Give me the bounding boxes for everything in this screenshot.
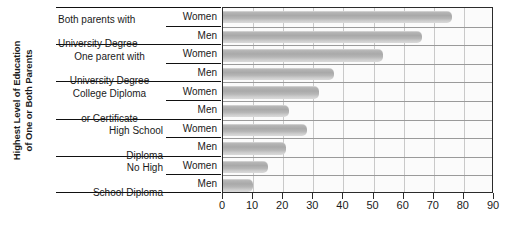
bar-row	[223, 138, 492, 157]
series-label: Women	[183, 160, 217, 171]
category-label-line-1: Both parents with	[58, 14, 135, 25]
bar-row	[223, 157, 492, 176]
category-label-line-1: High School	[109, 125, 163, 136]
bar-row	[223, 175, 492, 194]
series-label-column: Women Men Women Men Women Men Women Men …	[166, 7, 221, 193]
y-axis-title-line-2: of One or Both Parents	[23, 40, 35, 159]
x-axis-tick-label: 70	[427, 199, 439, 211]
series-label: Women	[183, 123, 217, 134]
bar-row	[223, 82, 492, 101]
horizontal-bar-chart: Highest Level of Education of One or Bot…	[0, 0, 513, 235]
series-label-row: Women	[166, 44, 221, 63]
series-label-row: Women	[166, 7, 221, 26]
bar-rows	[223, 8, 492, 192]
x-axis-tick-label: 60	[397, 199, 409, 211]
bar-row	[223, 27, 492, 46]
bar-row	[223, 45, 492, 64]
bar-women	[223, 124, 307, 136]
x-axis-tick-label: 0	[219, 199, 225, 211]
series-label: Women	[183, 11, 217, 22]
series-label-row: Women	[166, 119, 221, 138]
series-label-row: Men	[166, 137, 221, 156]
bar-men	[223, 105, 289, 117]
series-label-row: Men	[166, 100, 221, 119]
plot-area	[222, 7, 493, 193]
bar-row	[223, 101, 492, 120]
x-axis-tick-label: 90	[487, 199, 499, 211]
bar-row	[223, 64, 492, 83]
series-label: Women	[183, 86, 217, 97]
series-label-row: Women	[166, 81, 221, 100]
bar-women	[223, 11, 452, 23]
series-label: Men	[198, 30, 217, 41]
y-axis-title: Highest Level of Education of One or Bot…	[0, 0, 46, 200]
bar-men	[223, 68, 334, 80]
x-axis-tick-label: 30	[306, 199, 318, 211]
x-axis-tick-label: 80	[457, 199, 469, 211]
category-label-line-1: One parent with	[74, 51, 145, 62]
category-label-line-1: No High	[127, 162, 163, 173]
series-label-row: Men	[166, 26, 221, 45]
x-axis-tick-label: 40	[336, 199, 348, 211]
bar-row	[223, 120, 492, 139]
bar-women	[223, 161, 268, 173]
series-label-row: Men	[166, 63, 221, 82]
bar-women	[223, 86, 319, 98]
x-axis-tick-label: 50	[366, 199, 378, 211]
series-label: Men	[198, 178, 217, 189]
series-label: Women	[183, 48, 217, 59]
x-axis-tick-label: 10	[246, 199, 258, 211]
category-label-column: Both parents with University Degree One …	[56, 7, 166, 193]
bar-men	[223, 31, 422, 43]
category-label-line-2: School Diploma	[93, 187, 163, 198]
category-label-no-high-school-diploma: No High School Diploma	[56, 156, 166, 193]
y-axis-title-line-1: Highest Level of Education	[12, 40, 23, 159]
series-label-row: Women	[166, 156, 221, 175]
bar-row	[223, 8, 492, 27]
bar-women	[223, 49, 383, 61]
bar-men	[223, 142, 286, 154]
series-label: Men	[198, 141, 217, 152]
series-label-row: Men	[166, 174, 221, 193]
x-axis-tick-labels: 0102030405060708090	[222, 199, 493, 217]
series-label: Men	[198, 67, 217, 78]
x-axis-tick-label: 20	[276, 199, 288, 211]
category-label-line-1: College Diploma	[73, 88, 146, 99]
bar-men	[223, 179, 253, 191]
series-label: Men	[198, 104, 217, 115]
